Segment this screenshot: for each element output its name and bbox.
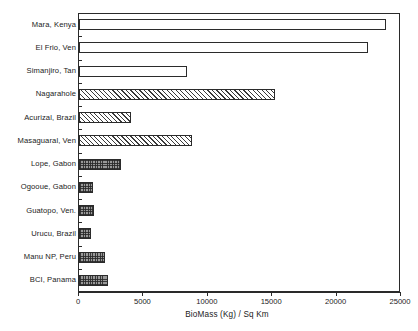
y-axis-category-labels: Mara, KenyaEl Frio, VenSimanjiro, TanNag… [0, 13, 76, 292]
bars-container [79, 13, 399, 292]
y-axis-label: Ogooue, Gabon [2, 183, 76, 191]
y-axis-label: Masaguaral, Ven [2, 137, 76, 145]
y-axis-label: Guatopo, Ven. [2, 207, 76, 215]
y-axis-label: Manu NP, Peru [2, 253, 76, 261]
x-tick-label: 15000 [251, 297, 291, 306]
y-axis-label: BCI, Panama [2, 276, 76, 284]
x-tick-label: 0 [58, 297, 98, 306]
bar [79, 205, 94, 216]
x-tick-mark [336, 292, 337, 296]
x-tick-mark [78, 292, 79, 296]
bar [79, 135, 192, 146]
bar [79, 89, 275, 100]
bar [79, 112, 131, 123]
y-axis-label: Urucu, Brazil [2, 230, 76, 238]
bar [79, 159, 121, 170]
x-tick-mark [142, 292, 143, 296]
y-axis-label: Lope, Gabon [2, 160, 76, 168]
y-axis-label: Nagarahole [2, 90, 76, 98]
bar [79, 275, 108, 286]
x-tick-label: 25000 [380, 297, 418, 306]
bar [79, 252, 105, 263]
bar-chart-figure: Mara, KenyaEl Frio, VenSimanjiro, TanNag… [0, 0, 418, 331]
bar [79, 228, 91, 239]
y-axis-label: Simanjiro, Tan [2, 67, 76, 75]
x-tick-label: 10000 [187, 297, 227, 306]
x-tick-label: 5000 [122, 297, 162, 306]
bar [79, 19, 386, 30]
bar [79, 42, 368, 53]
y-axis-label: El Frio, Ven [2, 44, 76, 52]
x-tick-mark [400, 292, 401, 296]
bar [79, 182, 93, 193]
y-axis-label: Acurizal, Brazil [2, 114, 76, 122]
x-axis-line [78, 292, 400, 293]
x-axis-title: BioMass (Kg) / Sq Km [0, 310, 418, 320]
x-tick-mark [207, 292, 208, 296]
x-tick-mark [271, 292, 272, 296]
bar [79, 66, 187, 77]
y-axis-label: Mara, Kenya [2, 21, 76, 29]
x-tick-label: 20000 [316, 297, 356, 306]
